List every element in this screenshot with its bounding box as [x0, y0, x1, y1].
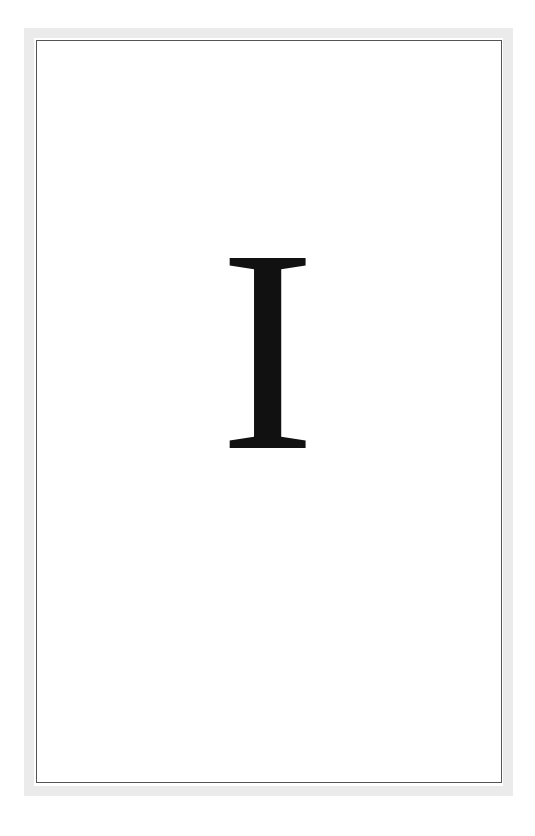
- chapter-numeral: I: [0, 206, 535, 496]
